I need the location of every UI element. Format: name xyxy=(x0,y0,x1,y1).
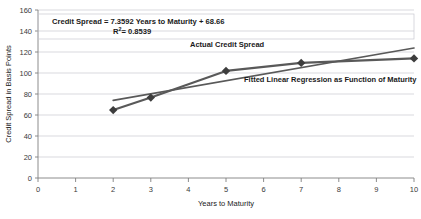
data-point-marker xyxy=(109,106,117,114)
x-tick-label: 4 xyxy=(186,185,190,194)
chart-canvas: 160 140 120 100 80 60 40 20 0 0 xyxy=(0,0,421,219)
r-equals: = 0.8539 xyxy=(121,27,151,36)
x-axis-tick-labels: 0 1 2 3 4 5 6 7 8 9 10 xyxy=(36,185,418,194)
data-point-markers xyxy=(109,54,418,114)
data-point-marker xyxy=(222,67,230,75)
data-point-marker xyxy=(410,54,418,62)
y-axis-tick-labels: 160 140 120 100 80 60 40 20 0 xyxy=(19,6,32,183)
actual-series-label: Actual Credit Spread xyxy=(190,40,265,49)
x-tick-label: 0 xyxy=(36,185,40,194)
y-tick-label: 120 xyxy=(19,48,32,57)
credit-spread-chart: 160 140 120 100 80 60 40 20 0 0 xyxy=(0,0,421,219)
y-tick-label: 140 xyxy=(19,27,32,36)
x-tick-label: 3 xyxy=(149,185,153,194)
x-axis-ticks xyxy=(38,178,414,182)
y-tick-label: 160 xyxy=(19,6,32,15)
y-tick-label: 100 xyxy=(19,69,32,78)
y-axis-title: Credit Spread in Basis Points xyxy=(4,45,13,143)
data-point-marker xyxy=(297,59,305,67)
x-tick-label: 2 xyxy=(111,185,115,194)
regression-equation-text: Credit Spread = 7.3592 Years to Maturity… xyxy=(52,17,225,26)
y-tick-label: 0 xyxy=(28,174,32,183)
x-tick-label: 7 xyxy=(299,185,303,194)
x-tick-label: 8 xyxy=(337,185,341,194)
y-tick-label: 20 xyxy=(24,153,32,162)
fitted-series-label: Fitted Linear Regression as Function of … xyxy=(244,75,417,84)
r-squared-text: R2= 0.8539 xyxy=(113,26,151,36)
x-axis-title: Years to Maturity xyxy=(198,199,254,208)
x-tick-label: 9 xyxy=(374,185,378,194)
x-tick-label: 5 xyxy=(224,185,228,194)
y-tick-label: 80 xyxy=(24,90,32,99)
x-tick-label: 10 xyxy=(410,185,418,194)
y-tick-label: 60 xyxy=(24,111,32,120)
actual-credit-spread-line xyxy=(113,58,414,110)
y-tick-label: 40 xyxy=(24,132,32,141)
x-tick-label: 1 xyxy=(74,185,78,194)
x-tick-label: 6 xyxy=(262,185,266,194)
